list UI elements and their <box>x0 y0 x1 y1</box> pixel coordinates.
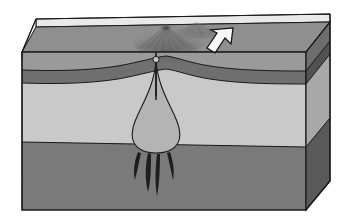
front-face-group <box>22 52 306 210</box>
vent-icon <box>159 24 173 32</box>
front-face-strata <box>22 52 306 210</box>
conduit-node <box>153 56 159 62</box>
figure-canvas: Volcano block diagram Cut-away three-dim… <box>0 0 352 221</box>
volcano-block-diagram <box>0 0 352 221</box>
top-surface-group <box>22 21 330 56</box>
right-face-group <box>306 22 330 210</box>
